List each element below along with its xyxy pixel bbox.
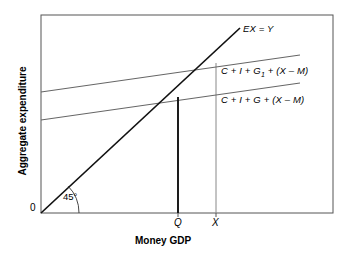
series-label-identity-line: EX = Y bbox=[243, 24, 274, 34]
x-tick-label-q: Q bbox=[174, 218, 182, 228]
series-label-ae-lower: C + I + G + (X – M) bbox=[221, 95, 304, 105]
keynesian-cross-figure: Aggregate expenditure Money GDP 0 45° EX… bbox=[0, 0, 347, 259]
ae-upper-suffix: + (X – M) bbox=[265, 65, 308, 76]
series-label-ae-upper: C + I + G1 + (X – M) bbox=[221, 66, 308, 78]
x-tick-label-x: X bbox=[212, 218, 219, 228]
x-axis-title: Money GDP bbox=[135, 236, 191, 246]
y-axis-title: Aggregate expenditure bbox=[18, 46, 28, 196]
origin-label: 0 bbox=[30, 203, 36, 213]
ae-upper-prefix: C + I + G bbox=[221, 65, 261, 76]
angle-label-45: 45° bbox=[63, 192, 77, 202]
